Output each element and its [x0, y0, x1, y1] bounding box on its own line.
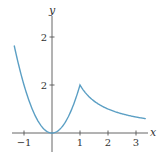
x-tick-label: −1 [17, 137, 32, 148]
x-tick-label: 1 [77, 137, 83, 148]
x-axis-label: x [150, 126, 157, 139]
y-axis-label: y [48, 4, 56, 17]
x-tick-label: 3 [133, 137, 139, 148]
function-curve [14, 46, 146, 133]
x-tick-label: 2 [105, 137, 111, 148]
y-tick-label: 2 [41, 80, 47, 91]
axes: −1123 22 x y [12, 4, 157, 152]
chart: −1123 22 x y [0, 0, 164, 158]
y-tick-label: 2 [41, 32, 47, 43]
